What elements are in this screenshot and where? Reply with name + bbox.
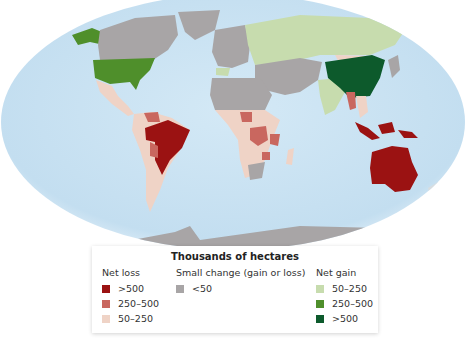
- legend-group-net-gain: Net gain 50–250 250–500 >500: [316, 267, 373, 326]
- legend-item: 250–500: [102, 296, 159, 311]
- swatch-small-lt50: [176, 285, 184, 293]
- legend-group-small-change: Small change (gain or loss) <50: [176, 267, 305, 296]
- legend-item: 250–500: [316, 296, 373, 311]
- legend-item: 50–250: [316, 281, 373, 296]
- region-nigeria: [240, 112, 252, 122]
- swatch-loss-50-250: [102, 315, 110, 323]
- swatch-gain-gt500: [316, 315, 324, 323]
- swatch-gain-50-250: [316, 285, 324, 293]
- legend-item: >500: [316, 311, 373, 326]
- region-zimbabwe: [262, 152, 270, 160]
- swatch-loss-250-500: [102, 300, 110, 308]
- legend-group-heading: Net loss: [102, 267, 159, 278]
- legend-group-heading: Net gain: [316, 267, 373, 278]
- legend-title: Thousands of hectares: [92, 251, 378, 262]
- region-north-africa: [210, 78, 272, 112]
- legend-item: 50–250: [102, 311, 159, 326]
- swatch-gain-250-500: [316, 300, 324, 308]
- map-legend: Thousands of hectares Net loss >500 250–…: [92, 246, 378, 333]
- legend-group-heading: Small change (gain or loss): [176, 267, 305, 278]
- legend-group-net-loss: Net loss >500 250–500 50–250: [102, 267, 159, 326]
- region-spain: [216, 68, 230, 76]
- legend-item: >500: [102, 281, 159, 296]
- swatch-loss-gt500: [102, 285, 110, 293]
- region-europe: [212, 25, 250, 68]
- legend-item: <50: [176, 281, 305, 296]
